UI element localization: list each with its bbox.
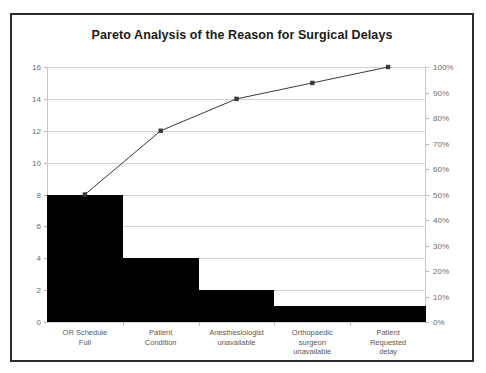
category-label: Patient Condition <box>145 328 177 347</box>
right-tick-label: 70% <box>433 139 449 148</box>
category-label: Anesthesiologist unavailable <box>209 328 264 347</box>
right-tick-label: 80% <box>433 114 449 123</box>
right-tick-mark <box>426 246 429 247</box>
chart-title: Pareto Analysis of the Reason for Surgic… <box>12 28 472 42</box>
right-tick-mark <box>426 322 429 323</box>
right-tick-mark <box>426 195 429 196</box>
category-label: Patient Requested delay <box>370 328 406 357</box>
left-tick-label: 0 <box>37 318 41 327</box>
cumulative-line-series <box>47 67 426 322</box>
category-label: Orthopaedic surgeon unavailable <box>292 328 333 357</box>
line-marker <box>234 97 238 101</box>
left-tick-label: 16 <box>32 63 41 72</box>
left-tick-label: 14 <box>32 94 41 103</box>
left-tick-label: 8 <box>37 190 41 199</box>
line-marker <box>159 129 163 133</box>
left-tick-label: 12 <box>32 126 41 135</box>
plot-area: 0246810121416 0%10%20%30%40%50%60%70%80%… <box>47 67 426 322</box>
cumulative-line <box>85 67 388 195</box>
right-tick-mark <box>426 297 429 298</box>
right-tick-mark <box>426 169 429 170</box>
right-tick-label: 50% <box>433 190 449 199</box>
category-label: OR Schedule Full <box>63 328 108 347</box>
right-tick-label: 60% <box>433 165 449 174</box>
line-marker <box>310 81 314 85</box>
chart-frame: Pareto Analysis of the Reason for Surgic… <box>10 13 474 362</box>
right-tick-label: 10% <box>433 292 449 301</box>
gridline <box>47 322 426 323</box>
x-tick-mark <box>123 322 124 326</box>
x-tick-mark <box>350 322 351 326</box>
right-tick-label: 20% <box>433 267 449 276</box>
left-tick-label: 6 <box>37 222 41 231</box>
right-tick-mark <box>426 220 429 221</box>
left-tick-mark <box>44 322 47 323</box>
line-marker <box>83 192 87 196</box>
right-tick-mark <box>426 93 429 94</box>
right-tick-mark <box>426 67 429 68</box>
right-tick-mark <box>426 271 429 272</box>
left-tick-label: 4 <box>37 254 41 263</box>
right-tick-label: 0% <box>433 318 445 327</box>
left-tick-label: 2 <box>37 286 41 295</box>
right-tick-label: 100% <box>433 63 453 72</box>
line-marker <box>386 65 390 69</box>
left-tick-label: 10 <box>32 158 41 167</box>
right-tick-label: 40% <box>433 216 449 225</box>
right-tick-mark <box>426 118 429 119</box>
x-tick-mark <box>274 322 275 326</box>
right-tick-label: 90% <box>433 88 449 97</box>
x-tick-mark <box>199 322 200 326</box>
right-tick-mark <box>426 144 429 145</box>
right-tick-label: 30% <box>433 241 449 250</box>
